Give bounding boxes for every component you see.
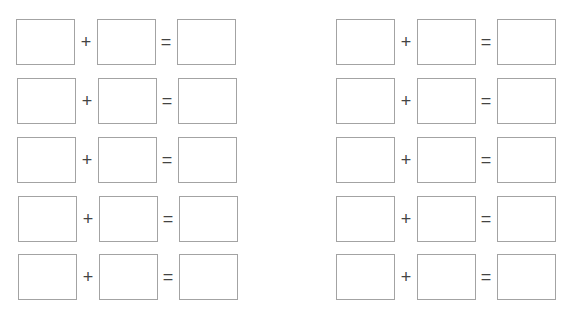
equals-sign: = <box>157 78 177 124</box>
equals-sign: = <box>476 78 496 124</box>
addend-1-box[interactable] <box>16 19 75 65</box>
equals-sign: = <box>476 196 496 242</box>
plus-sign: + <box>77 137 97 183</box>
addend-1-box[interactable] <box>18 196 77 242</box>
addend-2-box[interactable] <box>417 19 476 65</box>
sum-box[interactable] <box>179 254 238 300</box>
addend-2-box[interactable] <box>417 254 476 300</box>
plus-sign: + <box>396 78 416 124</box>
equals-sign: = <box>476 19 496 65</box>
plus-sign: + <box>396 137 416 183</box>
plus-sign: + <box>78 254 98 300</box>
addend-1-box[interactable] <box>18 254 77 300</box>
addend-2-box[interactable] <box>417 196 476 242</box>
sum-box[interactable] <box>497 78 556 124</box>
addend-2-box[interactable] <box>98 78 157 124</box>
addend-1-box[interactable] <box>336 78 395 124</box>
addend-2-box[interactable] <box>417 78 476 124</box>
sum-box[interactable] <box>497 19 556 65</box>
addend-1-box[interactable] <box>336 196 395 242</box>
equals-sign: = <box>476 254 496 300</box>
equals-sign: = <box>156 19 176 65</box>
sum-box[interactable] <box>497 254 556 300</box>
plus-sign: + <box>78 196 98 242</box>
sum-box[interactable] <box>497 137 556 183</box>
plus-sign: + <box>77 78 97 124</box>
addend-1-box[interactable] <box>336 19 395 65</box>
addend-1-box[interactable] <box>17 78 76 124</box>
addend-1-box[interactable] <box>336 137 395 183</box>
sum-box[interactable] <box>178 137 237 183</box>
sum-box[interactable] <box>177 19 236 65</box>
equals-sign: = <box>158 254 178 300</box>
equals-sign: = <box>157 137 177 183</box>
plus-sign: + <box>76 19 96 65</box>
addend-1-box[interactable] <box>336 254 395 300</box>
plus-sign: + <box>396 196 416 242</box>
addend-2-box[interactable] <box>98 137 157 183</box>
equals-sign: = <box>476 137 496 183</box>
plus-sign: + <box>396 254 416 300</box>
equals-sign: = <box>158 196 178 242</box>
addend-1-box[interactable] <box>17 137 76 183</box>
sum-box[interactable] <box>497 196 556 242</box>
addend-2-box[interactable] <box>99 196 158 242</box>
sum-box[interactable] <box>179 196 238 242</box>
sum-box[interactable] <box>178 78 237 124</box>
plus-sign: + <box>396 19 416 65</box>
addend-2-box[interactable] <box>99 254 158 300</box>
addend-2-box[interactable] <box>417 137 476 183</box>
addend-2-box[interactable] <box>97 19 156 65</box>
